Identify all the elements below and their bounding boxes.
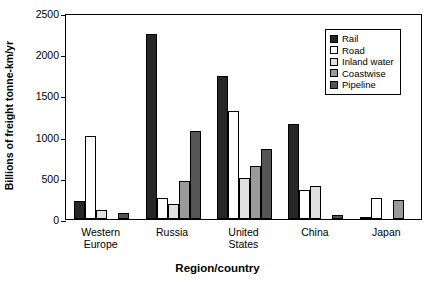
bar-slot [217, 15, 228, 219]
y-axis-tick-label: 1500 [17, 91, 59, 101]
chart-figure: Billions of freight tonne-km/yr 05001000… [0, 0, 435, 287]
bar-slot [310, 15, 321, 219]
bar-pipeline [261, 149, 272, 219]
y-axis-tick [61, 15, 66, 16]
bar-pipeline [332, 215, 343, 219]
y-axis-tick-label: 500 [17, 174, 59, 184]
legend-item: Road [330, 45, 394, 57]
x-axis-tick-label: United States [208, 226, 279, 250]
bar-slot [404, 15, 415, 219]
bar-slot [157, 15, 168, 219]
bar-group [146, 15, 201, 219]
bar-slot [299, 15, 310, 219]
y-axis-tick-label: 2500 [17, 9, 59, 19]
y-axis-tick [61, 97, 66, 98]
bar-road [371, 198, 382, 219]
bar-rail [217, 76, 228, 219]
chart-legend: RailRoadInland waterCoastwisePipeline [325, 29, 401, 95]
y-axis-tick-label: 1000 [17, 133, 59, 143]
bar-pipeline [118, 213, 129, 219]
legend-label: Coastwise [342, 69, 386, 79]
bar-slot [168, 15, 179, 219]
bar-inland-water [310, 186, 321, 219]
bar-slot [74, 15, 85, 219]
legend-item: Pipeline [330, 79, 394, 91]
bar-road [228, 111, 239, 219]
bar-slot [179, 15, 190, 219]
legend-item: Rail [330, 33, 394, 45]
y-axis-tick-label: 2000 [17, 50, 59, 60]
y-axis-tick [61, 221, 66, 222]
bar-road [157, 198, 168, 219]
bar-rail [74, 201, 85, 219]
bar-pipeline [190, 131, 201, 219]
bar-slot [85, 15, 96, 219]
y-axis-tick [61, 56, 66, 57]
legend-item: Inland water [330, 56, 394, 68]
legend-swatch [330, 35, 338, 43]
bar-inland-water [96, 210, 107, 219]
bar-coastwise [393, 200, 404, 219]
x-axis-tick-label: Japan [351, 226, 422, 238]
legend-swatch [330, 69, 338, 77]
bar-slot [118, 15, 129, 219]
y-axis-tick [61, 180, 66, 181]
y-axis-tick-label: 0 [17, 215, 59, 225]
x-axis-tick-label: Western Europe [65, 226, 136, 250]
x-axis-tick-label: China [279, 226, 350, 238]
bar-inland-water [168, 204, 179, 219]
bar-slot [250, 15, 261, 219]
x-axis-title: Region/country [0, 262, 435, 274]
bar-slot [239, 15, 250, 219]
bar-group [74, 15, 129, 219]
legend-item: Coastwise [330, 68, 394, 80]
bar-slot [288, 15, 299, 219]
bar-slot [261, 15, 272, 219]
legend-swatch [330, 58, 338, 66]
bar-inland-water [239, 178, 250, 219]
legend-label: Road [342, 46, 365, 56]
bar-coastwise [179, 181, 190, 219]
legend-label: Inland water [342, 57, 394, 67]
legend-label: Rail [342, 34, 358, 44]
bar-slot [107, 15, 118, 219]
y-axis-title-text: Billions of freight tonne-km/yr [3, 41, 15, 190]
legend-swatch [330, 81, 338, 89]
bar-road [85, 136, 96, 219]
bar-slot [146, 15, 157, 219]
legend-label: Pipeline [342, 80, 376, 90]
bar-rail [146, 34, 157, 219]
bar-group [217, 15, 272, 219]
bar-slot [190, 15, 201, 219]
bar-rail [288, 124, 299, 219]
bar-slot [96, 15, 107, 219]
bar-slot [228, 15, 239, 219]
x-axis-tick-label: Russia [136, 226, 207, 238]
bar-coastwise [250, 166, 261, 219]
y-axis-title: Billions of freight tonne-km/yr [0, 0, 18, 232]
legend-swatch [330, 46, 338, 54]
y-axis-tick [61, 139, 66, 140]
bar-rail [360, 217, 371, 219]
bar-road [299, 190, 310, 219]
